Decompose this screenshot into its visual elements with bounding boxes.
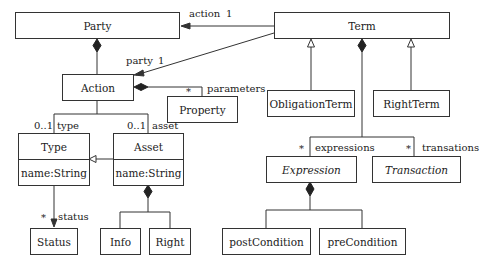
role-label-status: status (58, 211, 89, 222)
class-expression[interactable]: Expression (266, 156, 357, 183)
class-term[interactable]: Term (274, 12, 450, 39)
generalization-triangle-term-right-icon (408, 39, 415, 47)
composition-diamond-party-icon (93, 39, 101, 52)
composition-diamond-asset-icon (144, 185, 152, 198)
class-asset[interactable]: Asset name:String (113, 133, 184, 186)
class-postcondition[interactable]: postCondition (222, 228, 311, 255)
class-attribute: name:String (114, 160, 183, 185)
composition-diamond-expression-icon (306, 182, 314, 196)
role-label-expressions: expressions (315, 142, 375, 153)
composition-asset-parts-line (120, 212, 170, 228)
role-label-party: party (126, 55, 153, 66)
class-name: Asset (114, 134, 183, 160)
class-action[interactable]: Action (62, 74, 134, 101)
class-name: postCondition (223, 229, 310, 254)
class-name: ObligationTerm (268, 91, 354, 116)
multiplicity-label-party: 1 (158, 55, 164, 66)
arrowhead-status-icon (51, 219, 57, 227)
composition-action-property-line (148, 87, 202, 96)
class-status[interactable]: Status (30, 228, 78, 255)
class-name: Party (16, 13, 179, 38)
composition-diamond-term-icon (358, 39, 366, 52)
association-party-line (136, 33, 274, 75)
role-label-transations: transations (422, 142, 479, 153)
class-name: Transaction (373, 157, 460, 182)
composition-diamond-action-icon (134, 84, 148, 91)
role-label-type: type (57, 120, 79, 131)
multiplicity-label-action: 1 (226, 8, 232, 19)
class-obligationterm[interactable]: ObligationTerm (267, 90, 355, 117)
multiplicity-label-type: 0..1 (34, 120, 53, 131)
class-name: Property (168, 97, 237, 122)
class-name: Info (101, 229, 140, 254)
multiplicity-label-asset: 0..1 (127, 120, 146, 131)
arrowhead-action-icon (134, 70, 144, 76)
composition-expression-parts-line (266, 210, 362, 228)
class-name: preCondition (320, 229, 405, 254)
class-name: Type (19, 134, 89, 160)
class-name: Right (150, 229, 190, 254)
uml-diagram: Party Term Action Property ObligationTer… (0, 0, 485, 268)
class-name: Action (63, 75, 133, 100)
multiplicity-label-transations: * (406, 143, 411, 154)
class-transaction[interactable]: Transaction (372, 156, 461, 183)
class-type[interactable]: Type name:String (18, 133, 90, 186)
class-property[interactable]: Property (167, 96, 238, 123)
class-name: Term (275, 13, 449, 38)
role-label-action: action (189, 8, 220, 19)
multiplicity-label-status: * (41, 212, 46, 223)
class-name: Expression (267, 157, 356, 182)
class-info[interactable]: Info (100, 228, 141, 255)
multiplicity-label-parameters: * (186, 86, 191, 97)
generalization-triangle-type-icon (89, 156, 96, 163)
class-name: Status (31, 229, 77, 254)
class-rightterm[interactable]: RightTerm (373, 90, 450, 117)
class-party[interactable]: Party (15, 12, 180, 39)
class-name: RightTerm (374, 91, 449, 116)
class-precondition[interactable]: preCondition (319, 228, 406, 255)
arrowhead-party-icon (181, 23, 190, 29)
role-label-parameters: parameters (207, 83, 265, 94)
role-label-asset: asset (152, 120, 178, 131)
class-right[interactable]: Right (149, 228, 191, 255)
generalization-triangle-term-left-icon (308, 39, 315, 47)
class-attribute: name:String (19, 160, 89, 185)
multiplicity-label-expressions: * (299, 143, 304, 154)
